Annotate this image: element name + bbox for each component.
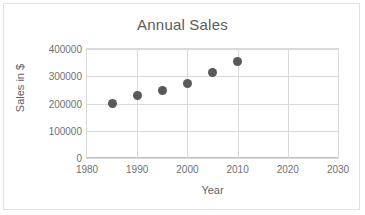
gridline-vertical <box>288 49 289 158</box>
x-axis-tick-label: 2020 <box>277 164 299 175</box>
gridline-vertical <box>137 49 138 158</box>
data-point-marker[interactable] <box>133 91 142 100</box>
x-axis-tick-label: 1990 <box>126 164 148 175</box>
data-point-marker[interactable] <box>233 57 242 66</box>
y-axis-tick-label: 200000 <box>49 98 82 109</box>
y-axis-tick-label: 400000 <box>49 44 82 55</box>
x-axis-title: Year <box>86 184 339 196</box>
x-axis-tick-labels: 198019902000201020202030 <box>4 164 361 178</box>
chart-title: Annual Sales <box>4 16 361 33</box>
y-axis-tick-labels: 4000003000002000001000000 <box>18 48 82 159</box>
data-point-marker[interactable] <box>108 99 117 108</box>
y-axis-tick-label: 0 <box>76 153 82 164</box>
data-point-marker[interactable] <box>208 68 217 77</box>
gridline-vertical <box>187 49 188 158</box>
x-axis-tick-label: 2000 <box>176 164 198 175</box>
x-axis-tick-label: 1980 <box>76 164 98 175</box>
gridline-horizontal <box>87 131 338 132</box>
x-axis-tick-label: 2030 <box>327 164 349 175</box>
gridline-horizontal <box>87 158 338 159</box>
chart-container: Annual Sales Sales in $ 4000003000002000… <box>3 3 360 210</box>
y-axis-tick-label: 300000 <box>49 71 82 82</box>
x-axis-tick-label: 2010 <box>226 164 248 175</box>
data-point-marker[interactable] <box>158 86 167 95</box>
y-axis-tick-label: 100000 <box>49 125 82 136</box>
gridline-horizontal <box>87 49 338 50</box>
gridline-horizontal <box>87 104 338 105</box>
plot-area <box>86 48 339 159</box>
data-point-marker[interactable] <box>183 79 192 88</box>
